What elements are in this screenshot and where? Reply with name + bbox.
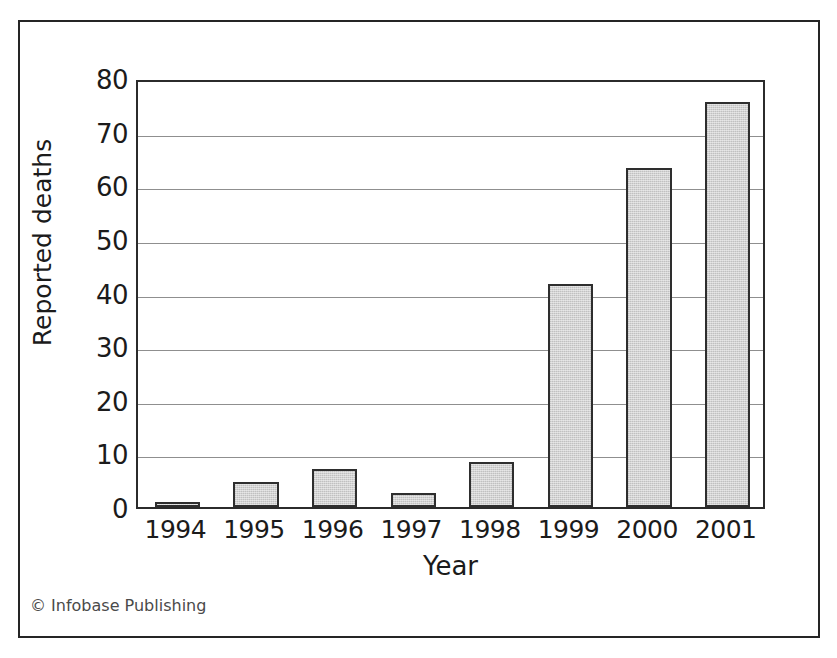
bar-series xyxy=(138,82,763,507)
y-axis-tick-labels: 01020304050607080 xyxy=(66,80,128,509)
x-axis-tick-label: 2001 xyxy=(686,515,765,544)
bar xyxy=(705,102,750,507)
copyright-credit: © Infobase Publishing xyxy=(30,596,206,615)
x-axis-tick-label: 1998 xyxy=(451,515,530,544)
bar xyxy=(155,502,200,507)
y-axis-title: Reported deaths xyxy=(28,133,57,353)
y-axis-tick-label: 0 xyxy=(72,494,128,524)
x-axis-tick-label: 1996 xyxy=(293,515,372,544)
y-axis-tick-label: 50 xyxy=(72,226,128,256)
y-axis-tick-label: 60 xyxy=(72,172,128,202)
bar xyxy=(626,168,671,507)
y-axis-tick-label: 10 xyxy=(72,440,128,470)
x-axis-tick-label: 2000 xyxy=(608,515,687,544)
y-axis-tick-label: 70 xyxy=(72,119,128,149)
y-axis-tick-label: 30 xyxy=(72,333,128,363)
bar xyxy=(391,493,436,507)
x-axis-tick-label: 1995 xyxy=(215,515,294,544)
bar xyxy=(469,462,514,507)
x-axis-tick-label: 1997 xyxy=(372,515,451,544)
y-axis-tick-label: 40 xyxy=(72,280,128,310)
x-axis-title: Year xyxy=(136,551,765,581)
x-axis-tick-label: 1994 xyxy=(136,515,215,544)
plot-area xyxy=(136,80,765,509)
y-axis-tick-label: 80 xyxy=(72,65,128,95)
bar xyxy=(312,469,357,507)
figure-container: 01020304050607080 Reported deaths 199419… xyxy=(0,0,837,658)
x-axis-tick-labels: 19941995199619971998199920002001 xyxy=(136,515,765,551)
bar xyxy=(548,284,593,507)
x-axis-tick-label: 1999 xyxy=(529,515,608,544)
bar xyxy=(233,482,278,507)
y-axis-tick-label: 20 xyxy=(72,387,128,417)
